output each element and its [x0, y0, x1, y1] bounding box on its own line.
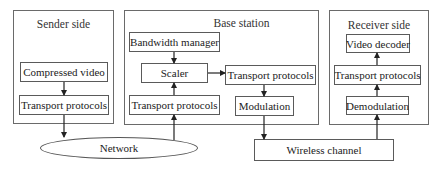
sender-side-title: Sender side — [14, 18, 113, 30]
compressed-video-box: Compressed video — [20, 62, 108, 82]
receiver-side-title: Receiver side — [330, 19, 428, 31]
base-station-title: Base station — [165, 17, 318, 29]
base-transport-protocols-out-box: Transport protocols — [225, 65, 316, 85]
bandwidth-manager-box: Bandwidth manager — [129, 32, 220, 52]
video-decoder-box: Video decoder — [346, 34, 410, 53]
wireless-channel-box: Wireless channel — [254, 139, 394, 161]
network-ellipse: Network — [40, 137, 198, 159]
scaler-box: Scaler — [141, 63, 208, 83]
modulation-box: Modulation — [235, 96, 294, 116]
base-transport-protocols-in-box: Transport protocols — [129, 95, 220, 115]
demodulation-box: Demodulation — [346, 96, 409, 115]
sender-transport-protocols-box: Transport protocols — [19, 95, 109, 115]
receiver-transport-protocols-box: Transport protocols — [334, 65, 421, 85]
